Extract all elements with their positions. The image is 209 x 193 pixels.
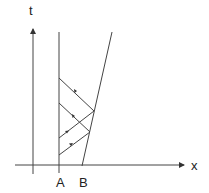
point-b-label: B — [79, 176, 88, 189]
point-a-label: A — [56, 176, 65, 189]
spacetime-diagram — [0, 0, 209, 193]
arrow-up-left-icon — [74, 89, 77, 93]
signal-back-2 — [59, 78, 94, 111]
x-axis-label: x — [191, 159, 198, 172]
t-axis-label: t — [29, 4, 33, 17]
worldline-b — [82, 32, 112, 166]
